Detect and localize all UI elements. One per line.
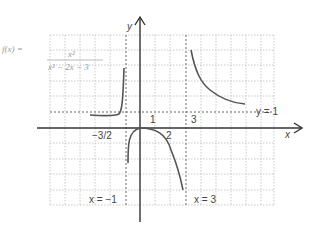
asymptote-lines — [50, 35, 274, 205]
asymptote-label-x-neg1: x = −1 — [89, 194, 117, 205]
grid — [50, 35, 274, 205]
asymptote-label-x3: x = 3 — [194, 194, 216, 205]
x-axis-label: x — [284, 129, 291, 140]
formula-denominator: x² − 2x − 3 — [47, 62, 89, 72]
formula-numerator: x² — [67, 49, 75, 59]
tick-label-3: 3 — [191, 114, 197, 125]
graph-canvas: y x 1 2 3 −3/2 y = 1 x = −1 x = 3 x² x² … — [0, 0, 311, 235]
tick-label-neg-three-halves: −3/2 — [92, 130, 112, 141]
y-axis-label: y — [126, 21, 133, 32]
axes — [37, 17, 302, 222]
function-curves — [90, 50, 245, 190]
tick-label-1: 1 — [150, 114, 156, 125]
tick-label-2: 2 — [166, 130, 172, 141]
asymptote-label-y1: y = 1 — [256, 106, 278, 117]
